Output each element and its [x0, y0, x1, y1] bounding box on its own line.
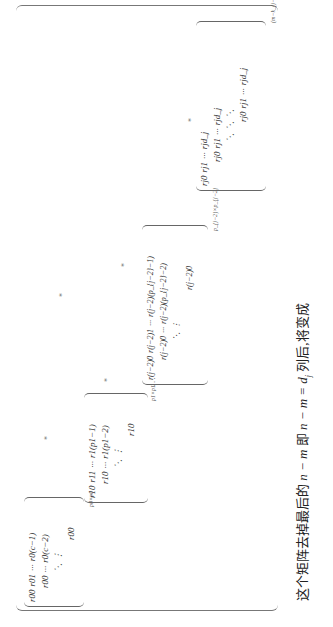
block-1-size: p1×p1 — [150, 385, 156, 401]
cell: ⋱ — [225, 109, 235, 118]
cell: ⋮ — [53, 551, 63, 560]
matrix-block-j: rj0rj1···rjd_j rj0rj1···rjd_j ⋱⋱⋱ rj0rj1… — [196, 21, 266, 191]
block-j-2-size: p_{j−2}×p_{j−2} — [212, 188, 218, 231]
cell: r1(p1−2) — [100, 425, 110, 459]
cell: ··· — [40, 566, 50, 573]
document-page: (m−k_{j−1})×(n−k_{j−1}) r00r01···r0(c−1)… — [0, 0, 333, 627]
cell: r01 — [27, 574, 37, 587]
cell: rjd_j — [199, 132, 209, 150]
cell: ··· — [146, 320, 155, 326]
caption-math: n − m — [295, 450, 310, 481]
block-row: ⋱⋮ — [170, 230, 183, 380]
cell: r(j−2)0 — [159, 336, 168, 360]
block-row: r00 — [65, 502, 78, 602]
cell: r(j−2)0 — [146, 356, 155, 380]
cell: ⋱ — [172, 332, 181, 340]
caption-part: 这个矩阵去掉最后的 — [295, 481, 310, 601]
block-row: r10···r1(p1−2) — [99, 398, 112, 498]
matrix-block-1: r10r11···r1(p1−1) r10···r1(p1−2) ⋱⋮ r10 — [84, 393, 148, 503]
cell: rj1 — [199, 162, 209, 173]
cell: rj0 — [238, 111, 248, 122]
cell: ··· — [100, 462, 110, 469]
cell: rj0 — [212, 151, 222, 162]
block-row: ⋱⋱⋱ — [224, 26, 237, 186]
cell: r11 — [87, 471, 97, 483]
cell: ··· — [27, 564, 37, 571]
block-row: r00r01···r0(c−1) — [26, 502, 39, 602]
asterisk-entry: * — [103, 378, 112, 382]
cell: ⋮ — [113, 447, 123, 456]
cell: r00 — [27, 589, 37, 602]
block-row: rj0rj1···rjd_j — [237, 26, 250, 186]
cell: r00 — [40, 575, 50, 588]
cell: rjd_j — [212, 108, 222, 126]
cell: r0(c−2) — [40, 534, 50, 563]
matrix-block-j-2: r(j−2)0r(j−2)1···r(j−2)(p_{j−2}−1) r(j−2… — [142, 225, 208, 385]
cell: r(j−2)0 — [185, 266, 194, 290]
asterisk-entry: * — [58, 293, 67, 297]
cell: r(j−2)(p_{j−2}−2) — [159, 263, 168, 324]
caption-part: 即 — [295, 430, 310, 450]
outer-matrix-size: (m−k_{j−1})×(n−k_{j−1}) — [270, 0, 276, 23]
cell: r00 — [66, 527, 76, 540]
caption-text: 这个矩阵去掉最后的 n − m 即 n − m = dj 列后,将变成 — [292, 303, 313, 601]
block-row: r(j−2)0···r(j−2)(p_{j−2}−2) — [157, 230, 170, 380]
cell: ··· — [238, 88, 248, 95]
cell: ⋮ — [172, 321, 181, 329]
block-row: r(j−2)0r(j−2)1···r(j−2)(p_{j−2}−1) — [144, 230, 157, 380]
cell: rj1 — [238, 98, 248, 109]
block-row: r00···r0(c−2) — [39, 502, 52, 602]
cell: r1(p1−1) — [87, 424, 97, 458]
matrix-block-0: r00r01···r0(c−1) r00···r0(c−2) ⋱⋮ r00 — [24, 497, 84, 607]
cell: ··· — [212, 128, 222, 135]
cell: ⋱ — [113, 459, 123, 468]
caption-math-sub: j — [304, 375, 313, 377]
asterisk-entry: * — [120, 263, 129, 267]
cell: ⋱ — [225, 133, 235, 142]
cell: r0(c−1) — [27, 533, 37, 562]
cell: rj0 — [199, 175, 209, 186]
block-row: r10 — [125, 398, 138, 498]
cell: ··· — [87, 461, 97, 468]
block-row: ⋱⋮ — [112, 398, 125, 498]
cell: ··· — [159, 327, 168, 333]
cell: ··· — [199, 152, 209, 159]
asterisk-entry: * — [187, 118, 196, 122]
cell: rjd_j — [238, 68, 248, 86]
block-row: rj0rj1···rjd_j — [198, 26, 211, 186]
caption-part: 列后,将变成 — [295, 303, 310, 375]
cell: rj1 — [212, 138, 222, 149]
block-row: r10r11···r1(p1−1) — [86, 398, 99, 498]
block-row: r(j−2)0 — [183, 230, 196, 380]
cell: r10 — [87, 485, 97, 498]
cell: r(j−2)1 — [146, 329, 155, 353]
cell: r(j−2)(p_{j−2}−1) — [146, 256, 155, 317]
block-row: rj0rj1···rjd_j — [211, 26, 224, 186]
asterisk-entry: * — [43, 436, 52, 440]
cell: ⋱ — [53, 563, 63, 572]
cell: r10 — [126, 423, 136, 436]
caption-math: n − m = d — [295, 377, 310, 430]
cell: ⋱ — [225, 121, 235, 130]
block-row: ⋱⋮ — [52, 502, 65, 602]
cell: r10 — [100, 471, 110, 484]
